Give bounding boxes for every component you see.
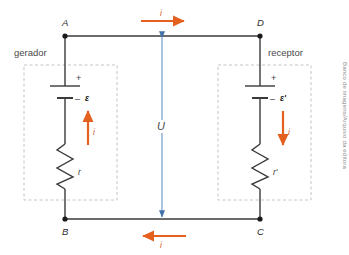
node-dot-d bbox=[257, 33, 262, 38]
left-resistor-label: r bbox=[78, 168, 81, 177]
circuit-schematic bbox=[0, 0, 349, 255]
node-label-a: A bbox=[62, 18, 68, 28]
circuit-diagram: A D B C gerador receptor + – ε r i + – ε… bbox=[0, 0, 349, 255]
top-current-label: i bbox=[160, 9, 162, 18]
right-resistor-label: r' bbox=[273, 168, 277, 177]
right-emf-label: ε' bbox=[280, 94, 286, 103]
left-current-label: i bbox=[93, 128, 95, 137]
left-plus-sign: + bbox=[76, 74, 81, 83]
node-label-c: C bbox=[257, 227, 264, 237]
resistor-right bbox=[252, 144, 268, 189]
receptor-label: receptor bbox=[268, 48, 303, 58]
right-plus-sign: + bbox=[271, 74, 276, 83]
node-dot-c bbox=[257, 216, 262, 221]
node-label-d: D bbox=[257, 18, 264, 28]
gerador-dashed-box bbox=[24, 65, 117, 200]
image-credit: Banco de imagens/Arquivo da editora bbox=[342, 62, 348, 169]
node-dot-a bbox=[62, 33, 67, 38]
right-current-label: i bbox=[288, 128, 290, 137]
voltage-label: U bbox=[154, 120, 168, 133]
right-minus-sign: – bbox=[270, 95, 275, 104]
left-emf-label: ε bbox=[85, 94, 89, 103]
node-dot-b bbox=[62, 216, 67, 221]
node-label-b: B bbox=[62, 227, 68, 237]
bottom-current-label: i bbox=[160, 241, 162, 250]
left-minus-sign: – bbox=[75, 95, 80, 104]
gerador-label: gerador bbox=[14, 48, 47, 58]
receptor-dashed-box bbox=[218, 65, 311, 200]
resistor-left bbox=[57, 144, 73, 189]
